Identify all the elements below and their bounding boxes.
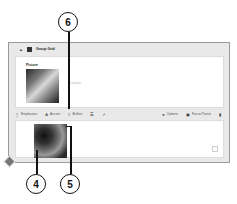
link-button[interactable]: ↗: [102, 112, 105, 117]
caret-up-icon[interactable]: ▲: [19, 47, 23, 52]
focus-points-icon: ▣: [186, 112, 190, 117]
focus-points-button[interactable]: ▣ Focus Points: [186, 112, 211, 117]
callout-4: 4: [26, 174, 46, 194]
options-icon: ●: [162, 112, 164, 117]
accent-button[interactable]: A Accent: [45, 112, 60, 117]
resize-handle[interactable]: [212, 146, 218, 152]
options-button[interactable]: ● Options: [162, 112, 178, 117]
block-header[interactable]: ▲ Group Grid: [9, 43, 229, 55]
link-icon: ↗: [102, 112, 105, 117]
emphasize-icon: ⋮: [15, 112, 19, 117]
image-thumbnail[interactable]: [34, 124, 67, 158]
list-icon: ☰: [90, 112, 94, 117]
callout-5-line: [70, 126, 72, 174]
picture-card[interactable]: Picture Caption: [15, 56, 224, 108]
picture-image[interactable]: [26, 69, 59, 103]
picture-label: Picture: [26, 63, 38, 67]
callout-5: 5: [60, 174, 80, 194]
callout-4-line: [36, 150, 38, 174]
block-title: Group Grid: [36, 47, 55, 51]
callout-6: 6: [58, 12, 78, 32]
block-handle-icon[interactable]: [3, 155, 16, 168]
group-grid-block: ▲ Group Grid Picture Caption ⋮ Emphasize…: [8, 42, 230, 163]
list-button[interactable]: ☰: [90, 112, 94, 117]
formatting-toolbar: ⋮ Emphasize A Accent ≡ Bullets ☰ ↗ ● Opt…: [15, 109, 224, 119]
grid-icon: [27, 47, 32, 52]
accent-icon: A: [45, 112, 48, 117]
emphasize-button[interactable]: ⋮ Emphasize: [15, 112, 37, 117]
image-card[interactable]: [15, 120, 224, 158]
trash-icon: ▮: [219, 112, 221, 117]
bullets-icon: ≡: [68, 112, 70, 117]
callout-6-line: [68, 32, 70, 109]
delete-button[interactable]: ▮: [219, 112, 221, 117]
bullets-button[interactable]: ≡ Bullets: [68, 112, 82, 117]
caption-placeholder[interactable]: Caption: [69, 81, 81, 85]
